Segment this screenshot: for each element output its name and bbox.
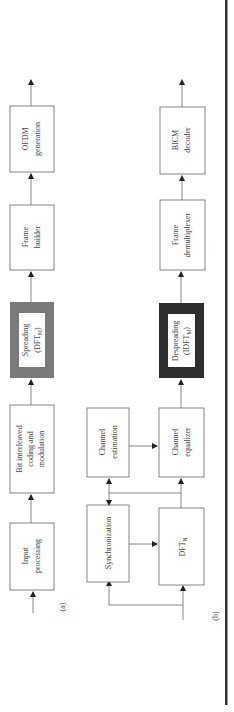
bicm-decoder-line1: BICM — [171, 130, 180, 150]
frame-builder-line1: Frame — [21, 226, 30, 247]
bicm-coding-line1: Bit interleaved — [15, 425, 24, 472]
bicm-coding-block: Bit interleaved coding and modulation — [10, 405, 54, 493]
despreading-block: Despreading (IDFTM) — [159, 303, 204, 378]
synchronization-line1: Synchronization — [104, 517, 113, 569]
sync-feed-line — [109, 586, 183, 605]
frame-demultiplexer-line1: Frame — [171, 224, 180, 245]
channel-estimation-line2: estimation — [110, 425, 119, 458]
synchronization-block: Synchronization — [87, 505, 129, 582]
dft-n-block: DFTN — [159, 508, 204, 585]
ofdm-generation-line1: OFDM — [21, 127, 30, 150]
input-processing-line2: processing — [33, 539, 42, 573]
channel-estimation-block: Channel estimation — [87, 408, 129, 477]
bicm-decoder-block: BICM decoder — [160, 107, 205, 174]
frame-demultiplexer-block: Frame demultiplexer — [160, 200, 205, 270]
channel-equalizer-line2: equalizer — [183, 427, 192, 457]
frame-demultiplexer-line2: demultiplexer — [183, 212, 192, 257]
separator-rule — [225, 0, 228, 705]
part-a-transmitter: Input processing Bit interleaved coding … — [10, 80, 67, 613]
frame-builder-block: Frame builder — [10, 205, 54, 270]
transceiver-block-diagram: Input processing Bit interleaved coding … — [0, 0, 234, 712]
frame-builder-line2: builder — [33, 225, 42, 248]
channel-equalizer-line1: Channel — [171, 428, 180, 455]
spreading-line2: (DFTM) — [33, 327, 43, 353]
input-processing-line1: Input — [21, 547, 30, 565]
bicm-decoder-line2: decoder — [183, 127, 192, 153]
ofdm-generation-line2: generation — [33, 122, 42, 156]
bicm-coding-line2: coding and — [26, 431, 35, 466]
spreading-line1: Spreading — [21, 324, 30, 356]
despreading-line1: Despreading — [171, 321, 180, 361]
input-processing-block: Input processing — [10, 523, 54, 590]
bicm-coding-line3: modulation — [37, 431, 46, 467]
part-b-label: (b) — [211, 611, 220, 621]
spreading-block: Spreading (DFTM) — [10, 302, 54, 378]
part-b-receiver: Synchronization DFTN Channel estimation … — [87, 80, 220, 621]
ofdm-generation-block: OFDM generation — [10, 106, 54, 172]
part-a-label: (a) — [58, 602, 67, 611]
channel-estimation-line1: Channel — [98, 428, 107, 455]
channel-equalizer-block: Channel equalizer — [159, 408, 204, 477]
